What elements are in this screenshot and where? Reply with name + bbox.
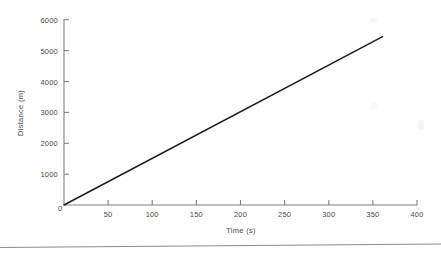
y-tick-label-4000: 4000	[28, 77, 58, 86]
x-tick-label-350: 350	[366, 210, 379, 219]
x-tick-label-50: 50	[104, 210, 113, 219]
x-tick-label-400: 400	[410, 210, 423, 219]
x-tick-label-150: 150	[190, 210, 203, 219]
y-tick-marks	[64, 20, 69, 175]
origin-tick-label: 0	[58, 204, 62, 213]
y-axis-title: Distance (m)	[16, 90, 25, 136]
y-tick-label-3000: 3000	[28, 108, 58, 117]
scan-smudge	[371, 103, 377, 109]
x-tick-label-250: 250	[278, 210, 291, 219]
y-tick-label-1000: 1000	[28, 170, 58, 179]
x-tick-label-200: 200	[234, 210, 247, 219]
y-tick-label-5000: 5000	[28, 46, 58, 55]
scan-smudge	[370, 18, 377, 23]
scanned-page: 6000 5000 4000 3000 2000 1000 0 50 100 1…	[0, 0, 441, 256]
y-tick-label-2000: 2000	[28, 139, 58, 148]
y-tick-label-6000: 6000	[28, 15, 58, 24]
x-tick-label-300: 300	[322, 210, 335, 219]
x-tick-marks	[108, 200, 417, 205]
series-line-distance	[64, 37, 383, 205]
scan-smudge	[418, 120, 424, 130]
distance-time-chart: 6000 5000 4000 3000 2000 1000 0 50 100 1…	[0, 0, 441, 256]
x-axis-title: Time (s)	[226, 226, 256, 235]
x-tick-label-100: 100	[146, 210, 159, 219]
